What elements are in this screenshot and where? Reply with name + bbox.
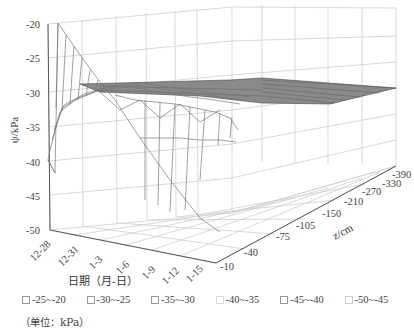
surface-chart: -20 -25 -30 -35 -40 -45 -50 ψ/kPa 12-28 … [0, 0, 414, 333]
legend-swatch-icon [216, 296, 224, 304]
surface-wireframe [48, 23, 250, 232]
legend-item: -25~-20 [22, 294, 87, 305]
svg-text:1-3: 1-3 [87, 254, 105, 272]
svg-text:-35: -35 [26, 122, 40, 133]
svg-text:-40: -40 [26, 157, 40, 168]
svg-text:-50: -50 [26, 225, 40, 236]
legend-swatch-icon [87, 296, 95, 304]
svg-text:-75: -75 [276, 231, 290, 242]
surface-far-plane [80, 78, 396, 104]
y-axis-label: z/cm [330, 221, 355, 242]
svg-text:-105: -105 [296, 220, 315, 231]
x-axis-label: 日期（月-日） [68, 275, 138, 287]
svg-text:1-12: 1-12 [160, 265, 181, 286]
svg-text:-390: -390 [392, 169, 411, 180]
z-axis-ticks: -20 -25 -30 -35 -40 -45 -50 [26, 19, 40, 236]
legend: -25~-20 -30~-25 -35~-30 -40~-35 -45~-40 … [22, 294, 409, 305]
unit-note: （单位：kPa） [20, 314, 89, 329]
legend-swatch-icon [151, 296, 159, 304]
svg-text:1-9: 1-9 [140, 264, 158, 282]
legend-item: -40~-35 [216, 294, 281, 305]
y-axis-ticks: -10 -40 -75 -105 -150 -210 -270 -330 -39… [220, 169, 411, 272]
svg-text:-20: -20 [26, 19, 40, 30]
svg-text:-45: -45 [26, 191, 40, 202]
svg-text:-150: -150 [322, 208, 341, 219]
legend-swatch-icon [280, 296, 288, 304]
legend-swatch-icon [345, 296, 353, 304]
svg-text:1-15: 1-15 [184, 263, 205, 284]
svg-text:-30: -30 [26, 88, 40, 99]
svg-text:-10: -10 [220, 261, 234, 272]
legend-item: -45~-40 [280, 294, 345, 305]
svg-text:12-28: 12-28 [28, 238, 53, 263]
z-axis-label: ψ/kPa [8, 117, 20, 144]
svg-text:-40: -40 [244, 247, 258, 258]
svg-text:1-6: 1-6 [114, 259, 132, 277]
svg-text:-270: -270 [362, 186, 381, 197]
svg-text:12-31: 12-31 [56, 243, 81, 268]
legend-swatch-icon [22, 296, 30, 304]
legend-item: -30~-25 [87, 294, 152, 305]
legend-item: -35~-30 [151, 294, 216, 305]
svg-text:-25: -25 [26, 53, 40, 64]
legend-item: -50~-45 [345, 294, 410, 305]
svg-text:-210: -210 [344, 196, 363, 207]
